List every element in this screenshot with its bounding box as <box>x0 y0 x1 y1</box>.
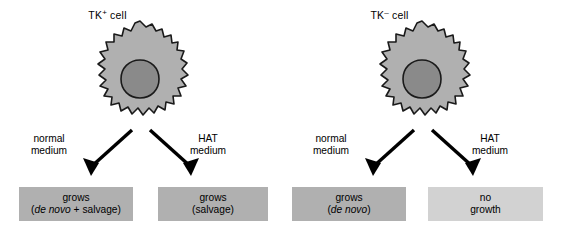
panel-tk-minus: TK– cell normal medium HAT medium grows … <box>282 0 563 233</box>
branch-label-normal-medium: normal medium <box>17 133 81 156</box>
result-line-1: grows <box>199 192 226 204</box>
result-line-1: grows <box>62 192 89 204</box>
arrow-down-left-icon <box>365 130 414 176</box>
amoeboid-cell-with-nucleus-icon <box>360 18 485 130</box>
branch-label-line1: HAT <box>458 133 522 145</box>
result-line-1: grows <box>335 192 362 204</box>
result-box-hat-medium: no growth <box>428 187 543 221</box>
result-italic-term: de novo <box>35 204 71 215</box>
branch-label-line2: medium <box>17 145 81 157</box>
result-suffix: + salvage) <box>71 204 121 215</box>
branch-label-line1: normal <box>299 133 363 145</box>
result-box-normal-medium: grows (de novo) <box>292 187 406 221</box>
result-italic-term: de novo <box>331 204 367 215</box>
branch-label-hat-medium: HAT medium <box>176 133 240 156</box>
branch-label-hat-medium: HAT medium <box>458 133 522 156</box>
branch-label-normal-medium: normal medium <box>299 133 363 156</box>
branch-label-line2: medium <box>299 145 363 157</box>
arrow-down-left-icon <box>83 130 132 176</box>
result-box-normal-medium: grows (de novo + salvage) <box>19 187 133 221</box>
result-suffix: ) <box>367 204 370 215</box>
branch-label-line1: HAT <box>176 133 240 145</box>
result-line-2: growth <box>470 204 501 216</box>
result-line-2: (de novo) <box>327 204 370 216</box>
result-line-1: no <box>480 192 491 204</box>
result-line-2: (de novo + salvage) <box>31 204 121 216</box>
branch-label-line2: medium <box>176 145 240 157</box>
result-prefix: (salvage) <box>192 204 234 215</box>
result-line-2: (salvage) <box>192 204 234 216</box>
amoeboid-cell-with-nucleus-icon <box>78 18 203 130</box>
branch-label-line2: medium <box>458 145 522 157</box>
panel-tk-plus: TK+ cell normal medium HAT medium grows … <box>0 0 281 233</box>
branch-label-line1: normal <box>17 133 81 145</box>
result-prefix: growth <box>470 204 501 215</box>
result-box-hat-medium: grows (salvage) <box>158 187 268 221</box>
